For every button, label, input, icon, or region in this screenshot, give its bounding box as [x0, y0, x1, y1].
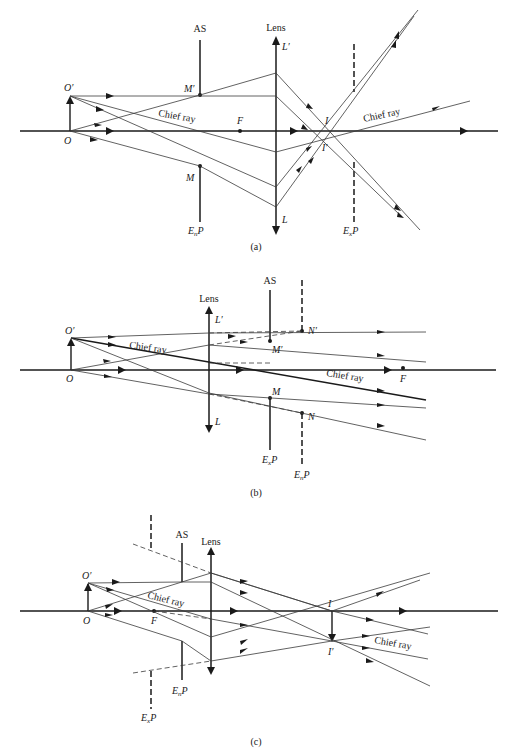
label-m: M [185, 172, 195, 183]
panel-a: AS Lens O′ O M′ M F L′ L I I′ Chief ray … [20, 10, 498, 253]
label-f: F [236, 115, 244, 126]
label-l-prime: L′ [281, 41, 291, 52]
label-i-prime: I′ [327, 646, 334, 657]
chief-ray-b [71, 338, 426, 400]
caption-b: (b) [250, 487, 262, 499]
label-exp: ExP [261, 454, 277, 467]
panel-b: AS Lens O′ O L′ L M′ M N′ N F Chief ray … [20, 275, 496, 499]
axis-arrow-icon [106, 127, 114, 135]
label-lens: Lens [266, 22, 286, 33]
label-l: L [281, 214, 288, 225]
chief-ray-a [70, 96, 470, 152]
label-lens: Lens [201, 536, 221, 547]
label-i: I [327, 598, 332, 609]
focal-point [238, 129, 242, 133]
lens-arrow-bottom-icon [272, 226, 280, 235]
axis-arrow-icon [460, 127, 468, 135]
label-i: I [324, 115, 329, 126]
optics-figure: AS Lens O′ O M′ M F L′ L I I′ Chief ray … [0, 0, 512, 753]
label-l-prime: L′ [214, 314, 224, 325]
ray [70, 73, 420, 230]
label-enp: EnP [293, 469, 310, 482]
ray [70, 10, 418, 187]
label-m-prime: M′ [183, 83, 195, 94]
label-chief-ray-right: Chief ray [362, 105, 401, 124]
focal-point [401, 366, 405, 370]
label-as: AS [194, 23, 207, 34]
label-m-prime: M′ [271, 344, 283, 355]
label-i-prime: I′ [321, 142, 328, 153]
ray [70, 96, 400, 215]
ray [70, 16, 414, 207]
label-exp: ExP [140, 712, 156, 725]
label-enp: EnP [171, 685, 188, 698]
label-m: M [271, 386, 281, 397]
label-chief-ray-right: Chief ray [374, 634, 413, 651]
label-enp: EnP [187, 225, 204, 238]
lens-arrow-top-icon [272, 36, 280, 45]
label-f: F [150, 615, 158, 626]
label-as: AS [176, 529, 189, 540]
label-o-prime: O′ [64, 82, 74, 93]
caption-a: (a) [250, 241, 261, 253]
axis-arrow-icon [290, 127, 298, 135]
label-chief-ray-left: Chief ray [158, 107, 197, 124]
label-o: O [66, 373, 73, 384]
panel-c: AS Lens O′ O F I I′ Chief ray Chief ray … [20, 515, 498, 748]
caption-c: (c) [250, 736, 261, 748]
label-o-prime: O′ [65, 325, 75, 336]
label-exp: ExP [342, 225, 358, 238]
label-o: O [83, 615, 90, 626]
label-o: O [64, 135, 71, 146]
label-lens: Lens [199, 293, 219, 304]
label-chief-ray-b1: Chief ray [129, 339, 168, 355]
label-as: AS [264, 275, 277, 286]
label-l: L [214, 416, 221, 427]
label-n: N [307, 411, 316, 422]
label-o-prime: O′ [82, 570, 92, 581]
label-f: F [399, 373, 407, 384]
label-n-prime: N′ [307, 325, 318, 336]
